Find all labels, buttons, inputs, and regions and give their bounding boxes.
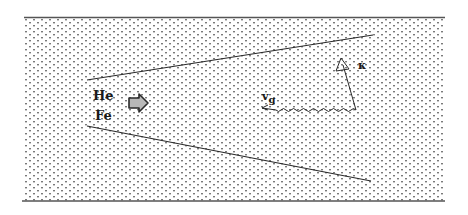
stipple-panel [22, 17, 445, 201]
diagram-svg: He Fe κ vg [0, 0, 468, 215]
diagram-canvas: He Fe κ vg [0, 0, 468, 215]
label-fe: Fe [95, 108, 112, 123]
label-kappa: κ [358, 59, 366, 72]
label-vg-subscript: g [268, 94, 275, 105]
label-he: He [93, 88, 114, 103]
